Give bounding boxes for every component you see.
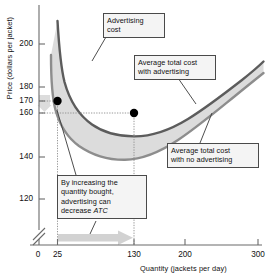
callout-atc-no-advertising: Average total cost with no advertising bbox=[167, 143, 259, 168]
x-tick-label-200: 200 bbox=[172, 250, 198, 259]
y-tick-label-160: 160 bbox=[7, 108, 33, 117]
leader-explanation bbox=[90, 221, 96, 234]
chart-plot-area bbox=[0, 0, 269, 277]
x-tick-label-130: 130 bbox=[121, 250, 147, 259]
marker-130-160 bbox=[130, 109, 138, 117]
x-axis-title: Quantity (jackets per day) bbox=[140, 264, 227, 273]
callout-advertising-cost: Advertising cost bbox=[103, 13, 165, 38]
advertising-cost-shaded-region bbox=[51, 21, 264, 160]
callout-explanation-emphasis: ATC bbox=[94, 206, 108, 215]
y-tick-label-200: 200 bbox=[7, 39, 33, 48]
callout-explanation-line4: decrease bbox=[61, 206, 94, 215]
leader-advertising-cost bbox=[92, 37, 106, 61]
y-tick-label-170: 170 bbox=[7, 96, 33, 105]
callout-explanation-line2: quantity bought, bbox=[61, 187, 114, 196]
leader-atc-advertising bbox=[178, 78, 196, 104]
x-tick-label-25: 25 bbox=[45, 250, 71, 259]
y-tick-label-120: 120 bbox=[7, 194, 33, 203]
callout-explanation-line1: By increasing the bbox=[61, 178, 118, 187]
cost-decrease-arrow bbox=[38, 95, 52, 112]
y-tick-label-140: 140 bbox=[7, 152, 33, 161]
x-tick-label-300: 300 bbox=[245, 250, 269, 259]
callout-explanation-line3: advertising can bbox=[61, 197, 111, 206]
callout-explanation: By increasing thequantity bought,adverti… bbox=[57, 175, 147, 219]
callout-atc-with-advertising: Average total cost with advertising bbox=[134, 55, 216, 80]
y-tick-label-180: 180 bbox=[7, 82, 33, 91]
marker-25-170 bbox=[53, 97, 61, 105]
quantity-increase-arrow bbox=[58, 231, 133, 246]
chart-figure: Price (dollars per jacket) Quantity (jac… bbox=[0, 0, 269, 277]
